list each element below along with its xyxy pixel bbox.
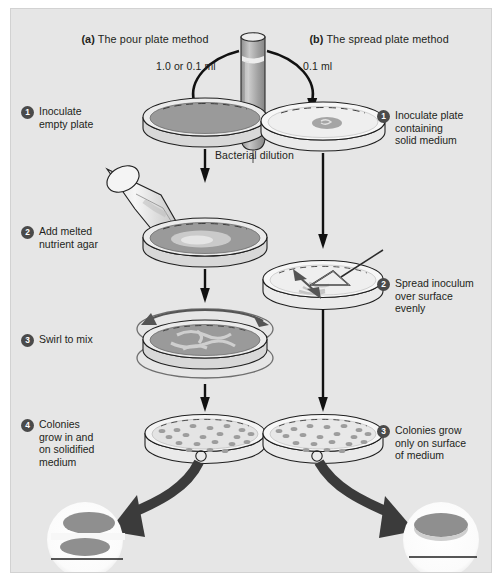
tube-label: Bacterial dilution [215,149,294,162]
step-label: Swirl to mix [39,333,93,346]
panel-b-title: The spread plate method [326,33,448,45]
panel-b-tag: (b) [309,33,323,45]
volume-label-right: 0.1 ml [303,60,332,73]
arrowhead [200,397,210,412]
step-right-3[interactable]: 3 Colonies grow only on surface of mediu… [377,424,492,462]
step-left-1[interactable]: 1 Inoculate empty plate [21,105,141,130]
step-badge: 2 [21,226,34,239]
test-tube-icon [241,33,265,163]
panel-a-title: The pour plate method [98,33,209,45]
step-left-4[interactable]: 4 Colonies grow in and on solidified med… [21,418,141,468]
step-label: Colonies grow only on surface of medium [395,424,466,462]
step-label: Spread inoculum over surface evenly [395,277,474,315]
panel-b-heading: (b) The spread plate method [297,20,449,58]
zoom-connector-left [129,462,199,514]
step-label: Add melted nutrient agar [39,225,98,250]
step-badge: 4 [21,419,34,432]
petri-dish-right-2-spread [263,250,383,310]
petri-dish-left-4-colonies [145,415,265,464]
step-label: Inoculate empty plate [39,105,93,130]
panel-a-tag: (a) [81,33,95,45]
inset-left [47,502,125,573]
step-left-3[interactable]: 3 Swirl to mix [21,333,141,347]
step-right-2[interactable]: 2 Spread inoculum over surface evenly [377,277,492,315]
step-badge: 2 [377,278,390,291]
volume-label-left: 1.0 or 0.1 ml [156,60,216,73]
arrowhead [200,288,210,303]
inset-right [403,502,479,573]
step-label: Inoculate plate containing solid medium [395,109,463,147]
petri-dish-left-2 [143,218,267,267]
petri-dish-right-1 [261,102,385,151]
petri-dish-left-1 [143,98,267,147]
petri-dish-right-3-colonies [263,415,383,464]
step-label: Colonies grow in and on solidified mediu… [39,418,94,468]
step-badge: 1 [21,106,34,119]
figure-panel: (a) The pour plate method (b) The spread… [10,8,492,573]
arrowhead [318,234,328,249]
step-right-1[interactable]: 1 Inoculate plate containing solid mediu… [377,109,492,147]
step-badge: 3 [377,425,390,438]
petri-dish-left-3-swirl [137,309,273,378]
step-badge: 1 [377,110,390,123]
step-left-2[interactable]: 2 Add melted nutrient agar [21,225,141,250]
step-badge: 3 [21,334,34,347]
panel-a-heading: (a) The pour plate method [69,20,209,58]
arrowhead [318,397,328,412]
